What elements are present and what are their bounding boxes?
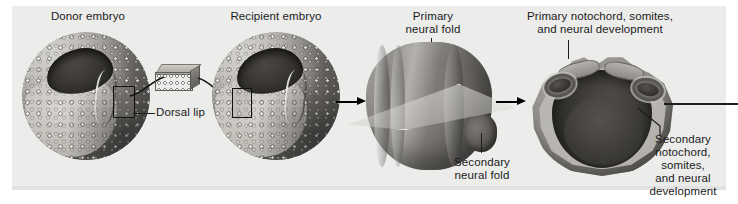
donor-dorsal-lip-selection-box bbox=[113, 86, 135, 118]
recipient-graft-site-box bbox=[232, 88, 252, 118]
label-donor-embryo: Donor embryo bbox=[18, 10, 158, 23]
primary-neural-tube-lumen bbox=[548, 76, 573, 95]
label-recipient-embryo: Recipient embryo bbox=[196, 10, 356, 23]
label-secondary-development: Secondary notochord, somites, and neural… bbox=[634, 133, 732, 198]
arrow-recipient-to-neurula bbox=[336, 97, 366, 106]
spemann-organizer-figure: Donor embryo Dorsal lip Recipient embryo bbox=[0, 0, 738, 204]
label-primary-neural-fold: Primary neural fold bbox=[388, 10, 478, 36]
arrow-shaft bbox=[336, 101, 357, 103]
label-primary-development: Primary notochord, somites, and neural d… bbox=[495, 10, 705, 36]
arrow-shaft bbox=[496, 101, 517, 103]
continuation-rule bbox=[664, 103, 738, 105]
excised-dorsal-lip-graft bbox=[155, 64, 197, 90]
arrow-head bbox=[357, 97, 366, 105]
graft-front-face bbox=[155, 72, 193, 91]
neural-ridge-left bbox=[374, 45, 390, 168]
dorsal-lip-leader-line bbox=[133, 113, 155, 114]
secondary-neural-tube-lumen bbox=[636, 81, 660, 99]
arrow-head bbox=[517, 97, 526, 105]
secondary-neural-fold-leader-line bbox=[481, 133, 482, 153]
label-secondary-neural-fold: Secondary neural fold bbox=[437, 156, 527, 182]
arrow-neurula-to-section bbox=[496, 97, 526, 106]
